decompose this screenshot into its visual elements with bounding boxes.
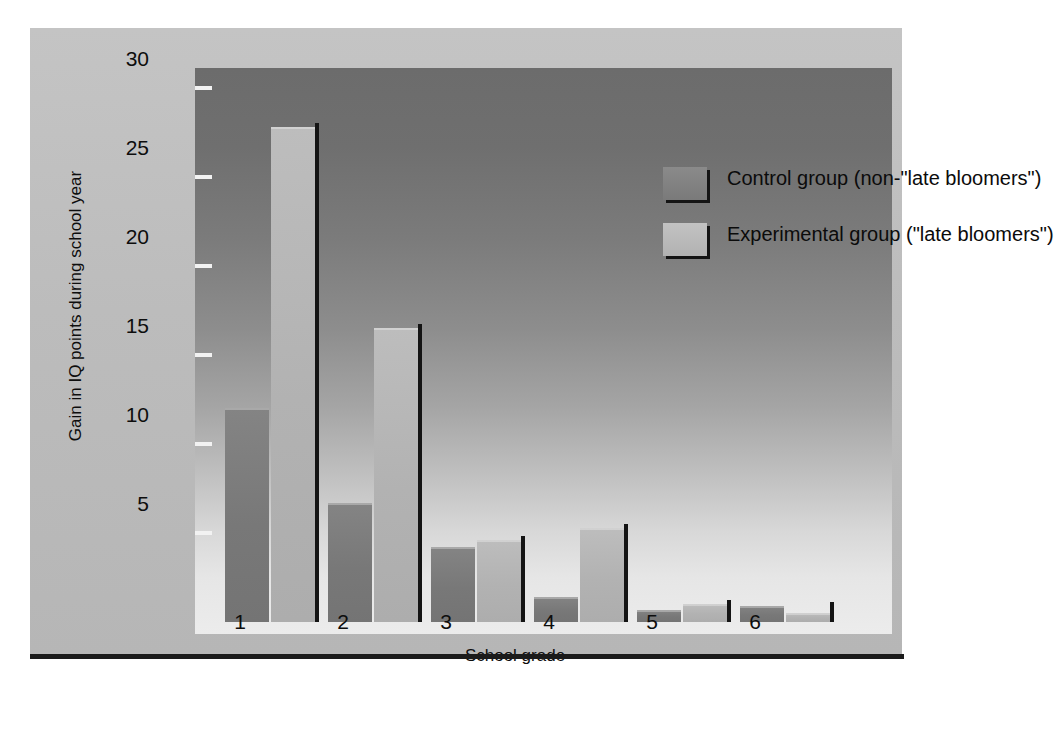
bar-group-shadow <box>521 536 525 622</box>
bar-experimental[interactable] <box>477 540 521 622</box>
y-axis-tick-mark <box>195 175 212 179</box>
bar-group-shadow <box>830 602 834 622</box>
bar-top-highlight <box>328 503 372 505</box>
legend-label-experimental: Experimental group ("late bloomers") <box>727 223 1054 246</box>
bar-experimental[interactable] <box>374 328 418 622</box>
bar-group-shadow <box>727 600 731 622</box>
bar-group-shadow <box>624 524 628 622</box>
bar-control[interactable] <box>431 547 475 622</box>
bar-control[interactable] <box>225 408 269 622</box>
bar-control[interactable] <box>328 503 372 622</box>
bar-experimental[interactable] <box>683 604 727 622</box>
bar-top-highlight <box>580 528 624 530</box>
bar-top-highlight <box>683 604 727 606</box>
bar-top-highlight <box>374 328 418 330</box>
legend-swatch-experimental-icon <box>663 223 707 256</box>
bar-top-highlight <box>271 127 315 129</box>
legend-label-control: Control group (non-"late bloomers") <box>727 167 1041 190</box>
bar-experimental[interactable] <box>580 528 624 622</box>
bar-control[interactable] <box>534 597 578 622</box>
bar-control[interactable] <box>740 606 784 622</box>
legend-item-experimental[interactable]: Experimental group ("late bloomers") <box>663 219 1058 275</box>
bar-top-highlight <box>225 408 269 410</box>
y-axis-tick-mark <box>195 353 212 357</box>
legend: Control group (non-"late bloomers") Expe… <box>663 163 1058 275</box>
bar-top-highlight <box>534 597 578 599</box>
plot-area: Control group (non-"late bloomers") Expe… <box>195 68 892 634</box>
y-axis-tick-mark <box>195 442 212 446</box>
y-axis-title: Gain in IQ points during school year <box>66 96 86 516</box>
bar-group-shadow <box>418 324 422 622</box>
bar-group-shadow <box>315 123 319 622</box>
bar-control[interactable] <box>637 610 681 622</box>
legend-swatch-control-icon <box>663 167 707 200</box>
bottom-rule <box>30 654 904 659</box>
bar-top-highlight <box>740 606 784 608</box>
bar-experimental[interactable] <box>271 127 315 622</box>
plot-inner <box>195 68 892 634</box>
bar-top-highlight <box>786 613 830 615</box>
bar-top-highlight <box>431 547 475 549</box>
chart-panel: Control group (non-"late bloomers") Expe… <box>30 28 902 656</box>
bar-top-highlight <box>637 610 681 612</box>
y-axis-tick-mark <box>195 86 212 90</box>
legend-item-control[interactable]: Control group (non-"late bloomers") <box>663 163 1058 219</box>
bar-top-highlight <box>477 540 521 542</box>
y-axis-tick-mark <box>195 531 212 535</box>
bar-experimental[interactable] <box>786 613 830 622</box>
y-axis-tick-mark <box>195 264 212 268</box>
